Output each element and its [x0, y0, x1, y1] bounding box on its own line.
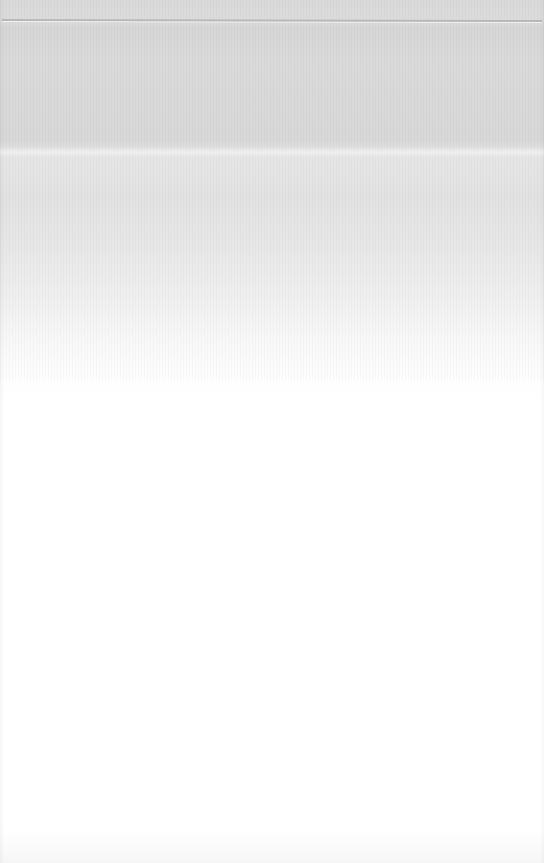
- left-edge-shadow: [0, 0, 4, 863]
- illegible-faded-text: [10, 340, 534, 364]
- scanline-texture: [0, 0, 544, 380]
- top-divider-line: [2, 19, 542, 22]
- right-edge-shadow: [540, 0, 544, 863]
- highlight-band: [0, 147, 544, 157]
- faded-screen: [0, 0, 544, 863]
